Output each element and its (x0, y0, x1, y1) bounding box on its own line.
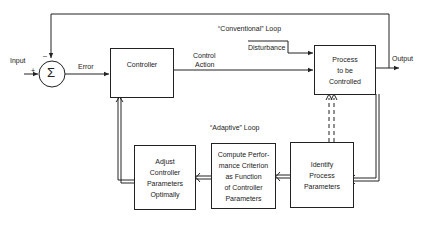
sigma-symbol: Σ (47, 62, 55, 84)
adjust-parameters-block: Adjust Controller Parameters Optimally (134, 145, 196, 210)
process-block: Process to be Controlled (314, 45, 376, 95)
adjust-label-4: Optimally (147, 189, 183, 200)
adjust-label-1: Adjust (147, 156, 183, 167)
controller-label: Controller (127, 59, 157, 70)
conventional-loop-label: “Conventional” Loop (218, 24, 281, 33)
compute-label-3: as Function (218, 171, 270, 182)
controller-block: Controller (110, 48, 174, 98)
adjust-label-2: Controller (147, 167, 183, 178)
compute-label-5: Parameters (218, 193, 270, 204)
identify-label-2: Process (304, 170, 340, 181)
disturbance-label: Disturbance (248, 43, 285, 52)
output-label: Output (392, 54, 413, 63)
process-label-3: Controlled (329, 76, 361, 87)
compute-label-4: of Controller (218, 182, 270, 193)
plus-sign: + (31, 66, 35, 75)
compute-label-1: Compute Perfor- (218, 149, 270, 160)
identify-parameters-block: Identify Process Parameters (290, 142, 354, 208)
control-action-label-1: Control (193, 51, 216, 60)
identify-label-1: Identify (304, 159, 340, 170)
error-label: Error (78, 62, 94, 71)
minus-sign: – (43, 51, 47, 60)
process-label-2: to be (329, 65, 361, 76)
adjust-label-3: Parameters (147, 178, 183, 189)
control-action-label-2: Action (195, 60, 214, 69)
input-label: Input (10, 56, 26, 65)
compute-criterion-block: Compute Perfor- mance Criterion as Funct… (211, 143, 276, 209)
identify-label-3: Parameters (304, 181, 340, 192)
adaptive-loop-label: “Adaptive” Loop (210, 123, 259, 132)
compute-label-2: mance Criterion (218, 160, 270, 171)
process-label-1: Process (329, 54, 361, 65)
